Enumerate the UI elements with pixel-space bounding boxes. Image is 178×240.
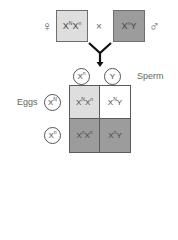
sperm-label: Sperm (137, 71, 164, 81)
sperm-gamete-xn: Xn (73, 68, 90, 85)
egg-gamete-xn: Xn (44, 127, 61, 144)
punnett-cell-XNXn: XNXn (70, 86, 100, 119)
punnett-cell-XNY: XNY (100, 86, 130, 119)
eggs-label: Eggs (17, 97, 38, 107)
egg-gamete-xN: XN (44, 94, 61, 111)
sperm-gamete-y: Y (104, 68, 121, 85)
punnett-cell-XnY: XnY (100, 119, 130, 152)
punnett-square: XNXn XNY XnXn XnY (69, 85, 131, 153)
punnett-cell-XnXn: XnXn (70, 119, 100, 152)
